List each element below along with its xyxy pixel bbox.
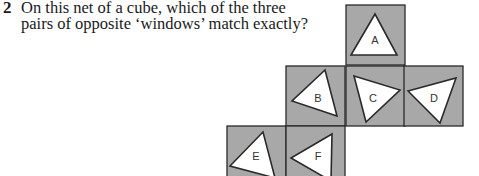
cube-net-diagram: ABCDEF [0, 0, 479, 176]
cube-face-f: F [286, 126, 345, 176]
cube-face-b: B [286, 66, 345, 126]
cube-face-a: A [346, 5, 405, 65]
cube-face-d: D [404, 66, 463, 126]
face-label: E [252, 150, 259, 162]
cube-face-c: C [346, 66, 405, 126]
face-label: C [369, 92, 377, 104]
cube-face-e: E [227, 126, 286, 176]
face-label: B [314, 92, 321, 104]
face-label: A [371, 34, 379, 46]
face-label: F [315, 150, 322, 162]
face-label: D [430, 92, 438, 104]
